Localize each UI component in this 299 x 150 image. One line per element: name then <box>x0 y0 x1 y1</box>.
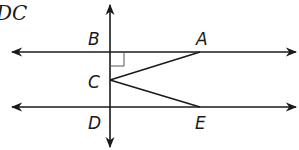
label-e: E <box>195 113 206 133</box>
label-d: D <box>88 113 101 133</box>
segment-ce <box>110 80 200 107</box>
label-a: A <box>195 29 208 49</box>
right-angle-marker <box>110 52 124 66</box>
geometry-diagram: DC B A C D E <box>0 0 299 150</box>
label-b: B <box>88 29 100 49</box>
label-c: C <box>88 72 100 92</box>
header-text: DC <box>0 1 27 25</box>
